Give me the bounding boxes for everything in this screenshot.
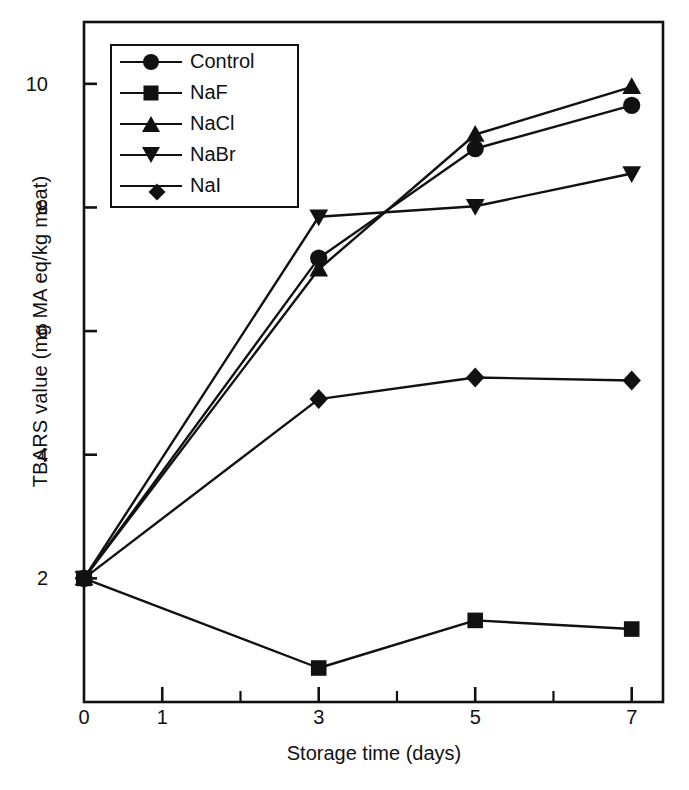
legend-item-nacl[interactable]: NaCl bbox=[112, 108, 297, 139]
chart-figure: TBARS value (mg MA eq/kg meat) 246810 01… bbox=[0, 0, 689, 790]
x-axis-tick-label: 1 bbox=[142, 706, 182, 729]
data-point-triangle-down bbox=[309, 210, 328, 227]
x-axis-tick-label: 7 bbox=[612, 706, 652, 729]
x-axis-tick-label: 5 bbox=[455, 706, 495, 729]
legend-marker-circle-icon bbox=[143, 54, 159, 70]
x-axis-tick-label: 0 bbox=[64, 706, 104, 729]
legend-item-naf[interactable]: NaF bbox=[112, 77, 297, 108]
data-point-diamond bbox=[310, 389, 328, 409]
data-point-square bbox=[311, 660, 327, 676]
data-point-diamond bbox=[623, 371, 641, 391]
data-point-triangle-up bbox=[622, 77, 641, 94]
data-point-diamond bbox=[466, 367, 484, 387]
legend-item-label: NaI bbox=[182, 174, 221, 197]
x-axis-tick-labels: 01357 bbox=[0, 706, 689, 736]
data-point-circle bbox=[623, 97, 640, 114]
legend-item-nabr[interactable]: NaBr bbox=[112, 139, 297, 170]
legend-item-label: NaBr bbox=[182, 143, 236, 166]
legend-line bbox=[120, 185, 182, 188]
legend-item-label: NaCl bbox=[182, 112, 234, 135]
legend-marker-triangle-up-icon bbox=[142, 116, 160, 132]
legend-sample bbox=[120, 176, 182, 196]
legend-item-label: NaF bbox=[182, 81, 228, 104]
plot-area bbox=[0, 0, 689, 790]
legend-sample bbox=[120, 83, 182, 103]
data-point-square bbox=[624, 621, 640, 637]
chart-legend: ControlNaFNaClNaBrNaI bbox=[110, 44, 299, 208]
data-point-square bbox=[467, 613, 483, 629]
legend-item-nai[interactable]: NaI bbox=[112, 170, 297, 201]
legend-sample bbox=[120, 114, 182, 134]
data-point-circle bbox=[467, 140, 484, 157]
series-line bbox=[84, 377, 632, 578]
legend-sample bbox=[120, 145, 182, 165]
legend-item-label: Control bbox=[182, 50, 254, 73]
x-axis-title: Storage time (days) bbox=[84, 742, 664, 765]
series-naf bbox=[76, 571, 639, 676]
legend-sample bbox=[120, 52, 182, 72]
legend-marker-square-icon bbox=[144, 85, 159, 100]
legend-marker-triangle-down-icon bbox=[142, 147, 160, 163]
series-line bbox=[84, 578, 632, 668]
x-axis-tick-label: 3 bbox=[299, 706, 339, 729]
legend-item-control[interactable]: Control bbox=[112, 46, 297, 77]
